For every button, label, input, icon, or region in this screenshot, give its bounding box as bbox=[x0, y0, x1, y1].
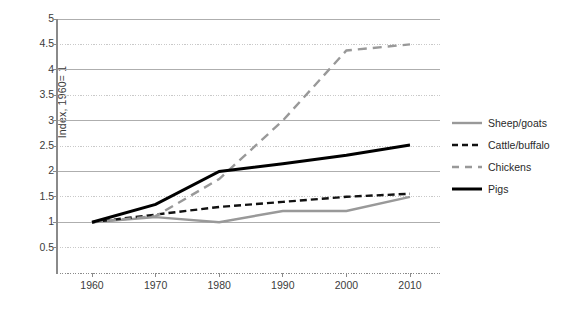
x-tick-label: 2000 bbox=[323, 279, 369, 291]
x-tick-label: 1960 bbox=[69, 279, 115, 291]
x-tick-label: 1980 bbox=[196, 279, 242, 291]
legend-swatch-icon bbox=[452, 183, 482, 195]
legend-label: Cattle/buffalo bbox=[488, 139, 550, 151]
line-chart: Index, 1960= 1 0.511.522.533.544.55 Shee… bbox=[0, 0, 563, 309]
legend-swatch-icon bbox=[452, 139, 482, 151]
legend-item[interactable]: Sheep/goats bbox=[452, 112, 560, 134]
legend-item[interactable]: Chickens bbox=[452, 156, 560, 178]
legend-label: Sheep/goats bbox=[488, 117, 547, 129]
x-tick-label: 1990 bbox=[260, 279, 306, 291]
legend-swatch-icon bbox=[452, 161, 482, 173]
x-tick-label: 2010 bbox=[387, 279, 433, 291]
x-tick-label: 1970 bbox=[133, 279, 179, 291]
legend-label: Pigs bbox=[488, 183, 508, 195]
series-line-pigs bbox=[92, 145, 410, 222]
gridlines bbox=[57, 19, 440, 248]
legend-item[interactable]: Cattle/buffalo bbox=[452, 134, 560, 156]
chart-legend: Sheep/goatsCattle/buffaloChickensPigs bbox=[452, 112, 560, 200]
series-line-chickens bbox=[92, 44, 410, 222]
legend-swatch-icon bbox=[452, 117, 482, 129]
legend-label: Chickens bbox=[488, 161, 531, 173]
legend-item[interactable]: Pigs bbox=[452, 178, 560, 200]
